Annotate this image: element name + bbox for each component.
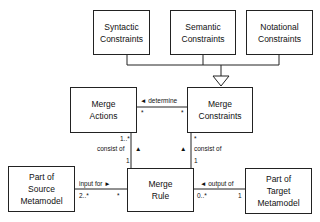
determine-label: ◄ determine xyxy=(140,97,177,105)
multiplicity: 1 xyxy=(194,157,198,165)
merge-rule-node: Merge Rule xyxy=(127,168,194,212)
syntactic-constraints-node: Syntactic Constraints xyxy=(93,10,150,55)
semantic-constraints-node: Semantic Constraints xyxy=(170,10,236,55)
multiplicity: 1 xyxy=(126,157,130,165)
multiplicity: 1 xyxy=(238,192,242,200)
multiplicity: 1..* xyxy=(120,135,130,143)
direction-arrow-up-icon: ▲ xyxy=(180,145,186,153)
consist-of-label: consist of xyxy=(194,145,221,153)
multiplicity: * xyxy=(117,192,120,200)
source-metamodel-node: Part of Source Metamodel xyxy=(8,166,75,212)
multiplicity: * xyxy=(141,109,144,117)
node-label: Part of Source Metamodel xyxy=(20,171,62,207)
target-metamodel-node: Part of Target Metamodel xyxy=(245,168,312,214)
node-label: Part of Target Metamodel xyxy=(257,173,299,209)
multiplicity: * xyxy=(181,109,184,117)
node-label: Merge Rule xyxy=(148,178,172,202)
node-label: Notational Constraints xyxy=(258,21,301,45)
output-of-label: ◄ output of xyxy=(200,180,234,188)
node-label: Semantic Constraints xyxy=(182,21,225,45)
notational-constraints-node: Notational Constraints xyxy=(246,10,313,55)
node-label: Merge Actions xyxy=(90,98,118,122)
merge-actions-node: Merge Actions xyxy=(70,87,137,133)
multiplicity: 2..* xyxy=(79,192,89,200)
node-label: Syntactic Constraints xyxy=(100,21,143,45)
multiplicity: 0..* xyxy=(197,192,207,200)
input-for-label: input for ► xyxy=(79,180,111,188)
merge-constraints-node: Merge Constraints xyxy=(187,87,253,133)
multiplicity: * xyxy=(194,135,197,143)
consist-of-label: consist of xyxy=(97,145,124,153)
direction-arrow-up-icon: ▲ xyxy=(135,145,141,153)
node-label: Merge Constraints xyxy=(199,98,242,122)
